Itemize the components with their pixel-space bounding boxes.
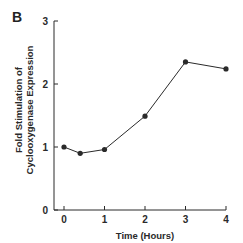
data-point-marker bbox=[78, 151, 83, 156]
data-line bbox=[64, 62, 226, 153]
data-point-marker bbox=[183, 59, 188, 64]
data-point-marker bbox=[223, 66, 228, 71]
data-point-marker bbox=[102, 147, 107, 152]
y-tick-label: 2 bbox=[42, 79, 48, 90]
y-tick-label: 0 bbox=[42, 205, 48, 216]
y-tick-label: 3 bbox=[42, 16, 48, 27]
data-point-marker bbox=[142, 114, 147, 119]
data-point-marker bbox=[61, 144, 66, 149]
line-chart: 012301234Time (Hours)Fold Stimulation of… bbox=[0, 0, 243, 243]
y-axis-title-line-2: Cyclooxygenase Expression bbox=[24, 45, 35, 174]
x-tick-label: 2 bbox=[142, 214, 148, 225]
x-axis-title: Time (Hours) bbox=[116, 230, 174, 241]
x-tick-label: 1 bbox=[102, 214, 108, 225]
x-tick-label: 0 bbox=[61, 214, 67, 225]
y-axis-title-line-1: Fold Stimulation of bbox=[13, 66, 24, 153]
x-tick-label: 3 bbox=[183, 214, 189, 225]
y-tick-label: 1 bbox=[42, 142, 48, 153]
x-tick-label: 4 bbox=[223, 214, 229, 225]
